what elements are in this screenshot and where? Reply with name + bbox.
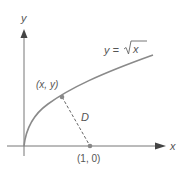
svg-text:x: x: [132, 43, 139, 55]
point-fixed-label: (1, 0): [77, 153, 100, 164]
sqrt-curve: [24, 55, 153, 146]
point-on-curve-label: (x, y): [36, 79, 58, 90]
point-on-curve: [60, 95, 65, 100]
distance-label: D: [81, 111, 89, 123]
curve-equation-label: y = x: [103, 41, 147, 56]
point-fixed: [88, 144, 93, 149]
y-axis-arrow-icon: [21, 29, 28, 38]
svg-text:y =: y =: [103, 44, 120, 56]
x-axis-label: x: [169, 140, 176, 152]
y-axis-label: y: [20, 12, 28, 24]
distance-diagram: y x y = x D (x, y) (1, 0): [0, 0, 183, 171]
x-axis-arrow-icon: [155, 143, 166, 150]
